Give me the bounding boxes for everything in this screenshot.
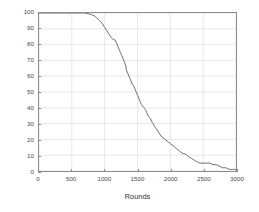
x-tick-label: 1500 [131,176,145,182]
x-tick-mark [204,169,205,172]
y-tick-label: 80 [27,41,34,47]
x-tick-mark [71,169,72,172]
y-tick-mark [38,108,41,109]
x-tick-mark [171,169,172,172]
y-tick-mark [38,28,41,29]
x-tick-label: 0 [36,176,39,182]
x-tick-label: 2000 [164,176,178,182]
y-tick-mark [38,60,41,61]
y-tick-mark [38,124,41,125]
y-tick-mark [38,156,41,157]
y-tick-mark [38,76,41,77]
y-tick-label: 90 [27,25,34,31]
x-tick-label: 1000 [97,176,111,182]
x-tick-label: 2500 [197,176,211,182]
x-tick-mark [38,169,39,172]
x-axis-title: Rounds [38,192,237,201]
plot-area [38,12,237,172]
y-tick-label: 0 [31,169,34,175]
y-tick-mark [38,12,41,13]
y-tick-label: 40 [27,105,34,111]
y-tick-mark [38,44,41,45]
y-tick-label: 20 [27,137,34,143]
x-tick-mark [138,169,139,172]
y-tick-label: 10 [27,153,34,159]
y-tick-label: 50 [27,89,34,95]
x-tick-label: 3000 [230,176,244,182]
chart-figure: 0102030405060708090100 05001000150020002… [0,0,259,212]
x-tick-mark [104,169,105,172]
x-tick-mark [237,169,238,172]
y-tick-label: 30 [27,121,34,127]
y-tick-mark [38,172,41,173]
y-tick-label: 100 [24,9,34,15]
x-tick-label: 500 [66,176,76,182]
y-tick-label: 70 [27,57,34,63]
y-tick-label: 60 [27,73,34,79]
y-tick-mark [38,92,41,93]
y-tick-mark [38,140,41,141]
series-live-nodes [39,13,236,171]
